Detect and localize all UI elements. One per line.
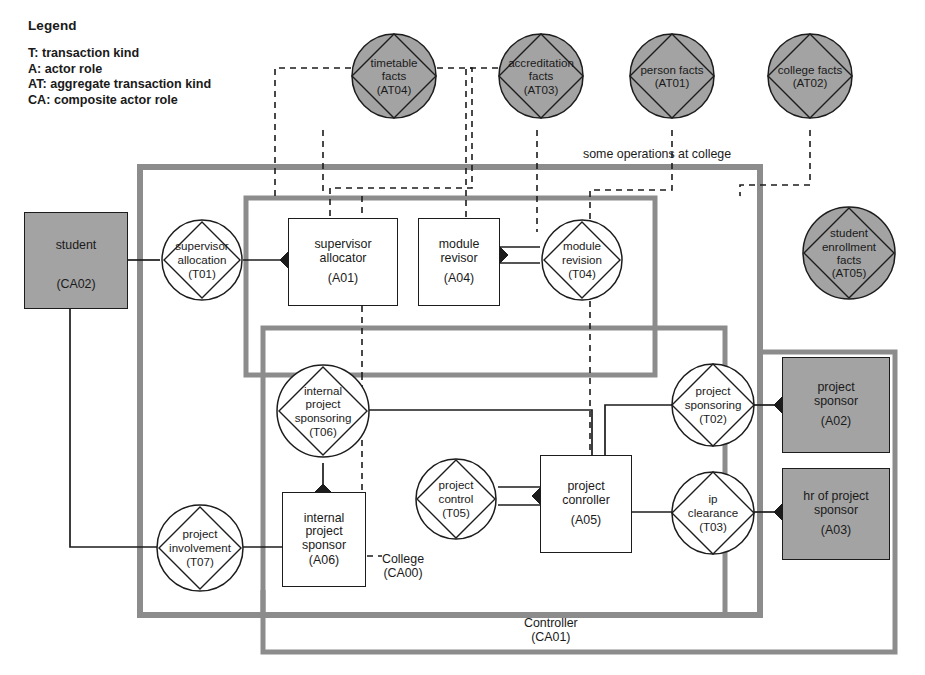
a05-line1: project: [567, 480, 604, 493]
t02-line1: project: [695, 384, 732, 397]
demo-construction-model-diagram: Legend T: transaction kind A: actor role…: [0, 0, 925, 675]
a03-line2: sponsor: [814, 504, 858, 517]
transaction-T01[interactable]: supervisor allocation (T01): [160, 218, 244, 302]
controller-label-name: Controller: [524, 616, 578, 630]
t02-line2: sponsoring: [684, 398, 743, 411]
t07-line2: involvement: [168, 541, 232, 554]
transaction-T03[interactable]: ip clearance (T03): [670, 468, 756, 558]
at03-line1: accreditation: [508, 56, 574, 69]
a06-code: (A06): [309, 554, 339, 567]
a01-code: (A01): [328, 272, 358, 285]
t02-code: (T02): [698, 412, 728, 425]
ca02-label: student: [56, 239, 97, 252]
at02-line1: college facts: [778, 63, 842, 76]
t04-line1: module: [562, 239, 602, 252]
transaction-T07[interactable]: project involvement (T07): [155, 503, 245, 593]
transaction-T05[interactable]: project control (T05): [414, 455, 498, 543]
transaction-T02[interactable]: project sponsoring (T02): [670, 358, 756, 452]
at04-line2: facts: [382, 69, 406, 82]
t01-code: (T01): [187, 267, 217, 280]
at01-code: (AT01): [655, 76, 690, 89]
legend-row-a: A: actor role: [28, 62, 211, 78]
actor-role-A02[interactable]: project sponsor (A02): [782, 357, 890, 453]
controller-label: Controller (CA01): [524, 616, 578, 644]
aggregate-transaction-AT02[interactable]: college facts (AT02): [767, 28, 853, 124]
at03-line2: facts: [529, 69, 553, 82]
at05-line2: enrollment: [822, 240, 876, 253]
aggregate-transaction-AT04[interactable]: timetable facts (AT04): [351, 28, 437, 124]
aggregate-transaction-AT05[interactable]: student enrollment facts (AT05): [801, 203, 897, 303]
actor-role-A01[interactable]: supervisor allocator (A01): [288, 218, 398, 306]
a04-line2: revisor: [440, 252, 477, 265]
actor-role-A06[interactable]: internal project sponsor (A06): [282, 492, 366, 587]
t06-line1: internal: [303, 384, 343, 397]
t04-code: (T04): [567, 267, 597, 280]
a02-code: (A02): [821, 415, 851, 428]
at04-line1: timetable: [370, 56, 417, 69]
at05-code: (AT05): [832, 266, 867, 279]
legend-title: Legend: [28, 18, 211, 33]
transaction-T04[interactable]: module revision (T04): [540, 218, 624, 302]
a03-code: (A03): [821, 524, 851, 537]
a04-line1: module: [439, 238, 480, 251]
actor-role-A04[interactable]: module revisor (A04): [418, 218, 500, 306]
a01-line1: supervisor: [314, 238, 371, 251]
aggregate-transaction-AT01[interactable]: person facts (AT01): [629, 28, 715, 124]
controller-label-code: (CA01): [524, 630, 578, 644]
a04-code: (A04): [444, 272, 474, 285]
t06-line2: project: [305, 397, 342, 410]
at05-line3: facts: [837, 253, 861, 266]
a06-line3: sponsor: [302, 539, 346, 552]
t03-line2: clearance: [687, 506, 739, 519]
t03-line1: ip: [707, 492, 718, 505]
t01-line1: supervisor: [174, 239, 229, 252]
college-label-name: College: [382, 552, 424, 566]
t05-line1: project: [438, 478, 475, 491]
at04-code: (AT04): [377, 83, 412, 96]
at03-code: (AT03): [524, 83, 559, 96]
t06-line3: sponsoring: [294, 411, 353, 424]
legend-row-at: AT: aggregate transaction kind: [28, 77, 211, 93]
legend: Legend T: transaction kind A: actor role…: [28, 18, 211, 108]
a01-line2: allocator: [320, 252, 367, 265]
actor-role-A03[interactable]: hr of project sponsor (A03): [782, 468, 890, 560]
t04-line2: revision: [561, 253, 603, 266]
t07-code: (T07): [185, 555, 215, 568]
at05-line1: student: [830, 226, 868, 239]
aggregate-transaction-AT03[interactable]: accreditation facts (AT03): [498, 28, 584, 124]
legend-row-ca: CA: composite actor role: [28, 93, 211, 109]
at01-line1: person facts: [640, 63, 703, 76]
actor-role-A05[interactable]: project conroller (A05): [540, 455, 632, 553]
a03-line1: hr of project: [803, 490, 868, 503]
t07-line1: project: [182, 527, 219, 540]
a05-line2: conroller: [562, 494, 610, 507]
legend-row-t: T: transaction kind: [28, 46, 211, 62]
composite-actor-CA02[interactable]: student (CA02): [24, 212, 128, 309]
t05-line2: control: [438, 492, 475, 505]
t06-code: (T06): [308, 425, 338, 438]
a05-code: (A05): [571, 514, 601, 527]
college-label-code: (CA00): [382, 566, 424, 580]
college-label: College (CA00): [382, 552, 424, 580]
a06-line1: internal: [304, 512, 345, 525]
a06-line2: project: [305, 525, 342, 538]
a02-line1: project: [817, 381, 854, 394]
a02-line2: sponsor: [814, 395, 858, 408]
t01-line2: allocation: [177, 253, 228, 266]
scope-note: some operations at college: [583, 147, 731, 161]
t03-code: (T03): [698, 520, 728, 533]
ca02-code: (CA02): [56, 278, 95, 291]
t05-code: (T05): [441, 506, 471, 519]
transaction-T06[interactable]: internal project sponsoring (T06): [275, 363, 371, 459]
at02-code: (AT02): [793, 76, 828, 89]
